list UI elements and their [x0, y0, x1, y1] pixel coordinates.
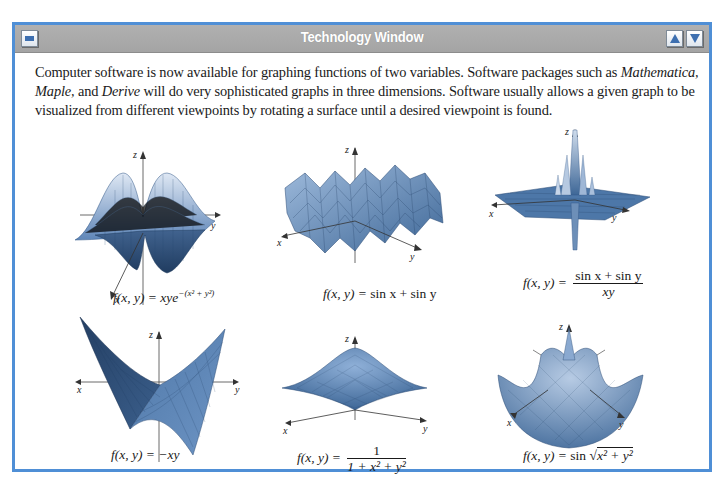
formula-rhs: xye [160, 290, 178, 305]
svg-text:z: z [344, 144, 349, 155]
svg-text:z: z [558, 321, 563, 332]
formula-bump: f(x, y) = 11 + x² + y² [297, 443, 406, 474]
svg-text:x: x [282, 425, 288, 436]
intro-paragraph: Computer software is now available for g… [35, 63, 699, 120]
minimize-icon [25, 36, 34, 41]
svg-text:y: y [234, 384, 240, 395]
graph-neg-xy: x y z f(x, y) = −xy [75, 317, 275, 487]
sqrt-symbol: √ [589, 448, 596, 463]
formula-sin-sum: f(x, y) = sin x + sin y [323, 286, 436, 302]
graph-sin-radial: z x y f(x, y) = sin √x² + y² [493, 320, 693, 490]
surface-plot-bump: z x y [277, 330, 477, 440]
svg-text:z: z [132, 149, 137, 160]
formula-rhs: sin [570, 448, 589, 463]
triangle-up-icon [670, 34, 680, 43]
formula-xye: f(x, y) = xye−(x² + y²) [113, 288, 214, 306]
technology-window: Technology Window Computer software is n… [12, 22, 712, 472]
formula-sin-over-xy: f(x, y) = sin x + sin yxy [523, 268, 643, 299]
formula-rhs: −xy [158, 447, 179, 462]
intro-text-2: and [74, 83, 101, 99]
svg-text:z: z [564, 126, 569, 137]
formula-neg-xy: f(x, y) = −xy [111, 447, 179, 463]
intro-text-1: Computer software is now available for g… [35, 64, 621, 80]
formula-lhs: f(x, y) = [323, 286, 370, 301]
window-title: Technology Window [50, 29, 675, 45]
fraction-numerator: sin x + sin y [573, 268, 643, 284]
surface-plot-sin-radial: z x y [493, 320, 693, 460]
formula-lhs: f(x, y) = [523, 275, 570, 290]
triangle-down-icon [690, 34, 700, 43]
fraction-denominator: 1 + x² + y² [347, 459, 406, 474]
minimize-button[interactable] [21, 30, 38, 47]
svg-text:z: z [148, 329, 153, 340]
graph-sin-sum: z x y f(x, y) = sin x + sin y [265, 143, 465, 313]
fraction-numerator: 1 [347, 443, 406, 459]
formula-lhs: f(x, y) = [523, 448, 570, 463]
svg-text:y: y [611, 212, 617, 223]
fraction-denominator: xy [573, 284, 643, 299]
formula-lhs: f(x, y) = [113, 290, 160, 305]
svg-text:y: y [409, 251, 415, 262]
formula-lhs: f(x, y) = [111, 447, 158, 462]
title-bar: Technology Window [15, 25, 709, 53]
svg-text:y: y [422, 423, 428, 434]
formula-lhs: f(x, y) = [297, 450, 344, 465]
svg-text:y: y [618, 419, 624, 430]
svg-text:x: x [488, 208, 494, 219]
svg-text:x: x [76, 384, 82, 395]
formula-sin-radial: f(x, y) = sin √x² + y² [523, 448, 633, 464]
formula-exponent: −(x² + y²) [178, 288, 214, 298]
surface-plot-neg-xy: x y z [75, 317, 275, 467]
svg-text:z: z [344, 333, 349, 344]
surface-plot-sin-over-xy: z x y [485, 125, 685, 285]
svg-text:x: x [506, 417, 512, 428]
graph-sin-over-xy: z x y f(x, y) = sin x + sin yxy [485, 125, 685, 295]
svg-text:x: x [276, 237, 282, 248]
formula-radicand: x² + y² [597, 447, 633, 463]
formula-rhs: sin x + sin y [370, 286, 436, 301]
graph-bump: z x y f(x, y) = 11 + x² + y² [277, 330, 477, 495]
scroll-down-button[interactable] [686, 30, 703, 47]
software-derive: Derive [102, 83, 140, 99]
scroll-up-button[interactable] [666, 30, 683, 47]
graph-xye: y z x f(x, y) = xye−(x² + y²) [65, 145, 265, 315]
